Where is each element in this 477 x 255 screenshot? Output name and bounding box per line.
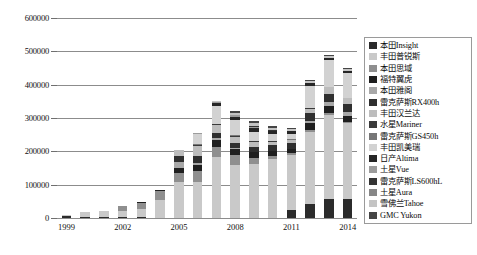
bar-segment [324,199,334,218]
legend-swatch [369,155,377,162]
legend-swatch [369,53,377,60]
legend-label: 雪佛兰Tahoe [380,198,423,209]
legend-item[interactable]: 丰田汉兰达 [368,108,468,119]
legend-swatch [369,110,377,117]
legend-swatch [369,144,377,151]
bar-segment [230,137,240,144]
y-axis-tick-label: 500000 [25,46,49,56]
x-axis-tick-label: 2002 [109,222,137,232]
bar-segment [193,134,203,144]
bar-segment [193,171,203,181]
legend-item[interactable]: 雪佛兰Tahoe [368,198,468,209]
stacked-bar[interactable] [212,101,222,218]
plot-area [57,18,357,218]
legend-label: 土星Aura [380,187,412,198]
legend-swatch [369,133,377,140]
stacked-bar[interactable] [155,190,165,218]
legend-label: 福特翼虎 [380,74,412,85]
x-axis-tick-label: 2008 [221,222,249,232]
stacked-bar[interactable] [249,121,259,218]
stacked-bar[interactable] [268,126,278,218]
y-axis-tick [51,85,57,86]
bar-segment [324,115,334,199]
legend-item[interactable]: 雷克萨斯LS600hL [368,176,468,187]
bar-segment [324,106,334,113]
y-axis-tick-label: 600000 [25,13,49,23]
bar-segment [287,155,297,210]
legend-swatch [369,166,377,173]
legend-swatch [369,87,377,94]
legend-item[interactable]: 土星Vue [368,164,468,175]
stacked-bar[interactable] [230,111,240,218]
legend-item[interactable]: 丰田普锐斯 [368,51,468,62]
bar-segment [212,140,222,147]
legend-item[interactable]: 福特翼虎 [368,74,468,85]
legend-label: 雷克萨斯GS450h [380,131,438,142]
bar-segment [230,155,240,165]
bar-segment [343,123,353,199]
y-axis-tick-label: 200000 [25,146,49,156]
bar-segment [305,113,315,120]
y-axis-tick-label: 300000 [25,113,49,123]
bar-segment [305,204,315,218]
stacked-bar[interactable] [305,80,315,218]
legend-item[interactable]: 日产Altima [368,153,468,164]
legend-item[interactable]: 土星Aura [368,187,468,198]
legend-swatch [369,200,377,207]
bar-segment [230,120,240,135]
stacked-bar[interactable] [324,55,334,218]
bar-segment [287,210,297,218]
bar-segment [343,199,353,218]
bar-segment [174,173,184,182]
bar-segment [193,182,203,218]
legend-swatch [369,76,377,83]
bar-segment [174,182,184,218]
legend-item[interactable]: 本田Insight [368,40,468,51]
legend-label: 本田思域 [380,63,412,74]
stacked-bar[interactable] [174,150,184,218]
stacked-bar[interactable] [343,68,353,218]
stacked-bar[interactable] [137,202,147,218]
legend-label: GMC Yukon [380,210,421,221]
legend-item[interactable]: 本田雅阁 [368,85,468,96]
legend-swatch [369,212,377,219]
bar-segment [212,157,222,218]
bar-segment [193,146,203,156]
bar-segment [137,209,147,217]
legend-item[interactable]: 雷克萨斯RX400h [368,96,468,107]
legend-item[interactable]: 丰田凯美瑞 [368,142,468,153]
legend-swatch [369,189,377,196]
bar-segment [212,106,222,124]
stacked-bar[interactable] [118,206,128,218]
legend-swatch [369,178,377,185]
legend-item[interactable]: GMC Yukon [368,209,468,220]
y-axis-tick [51,185,57,186]
bar-segment [174,156,184,163]
bar-segment [62,216,72,218]
stacked-bar[interactable] [287,128,297,218]
legend-label: 雷克萨斯LS600hL [380,176,442,187]
stacked-bar[interactable] [193,133,203,218]
y-axis-tick-label: 0 [45,213,49,223]
bar-segment [305,86,315,109]
legend-item[interactable]: 雷克萨斯GS450h [368,130,468,141]
x-axis-line [57,218,357,219]
bar-segment [212,125,222,132]
chart-figure: 0100000200000300000400000500000600000 19… [0,0,477,255]
legend-item[interactable]: 本田思域 [368,63,468,74]
bar-segment [193,165,203,172]
legend-label: 日产Altima [380,153,418,164]
legend-swatch [369,65,377,72]
bar-segment [230,165,240,218]
stacked-bar[interactable] [62,215,72,218]
stacked-bar[interactable] [99,211,109,218]
x-axis-tick-label: 1999 [52,222,80,232]
legend-item[interactable]: 水星Mariner [368,119,468,130]
bar-segment [343,73,353,98]
bar-segment [305,132,315,204]
stacked-bar[interactable] [80,212,90,218]
bar-segment [99,217,109,218]
bar-segment [268,159,278,218]
y-axis-tick-label: 100000 [25,180,49,190]
legend-swatch [369,42,377,49]
